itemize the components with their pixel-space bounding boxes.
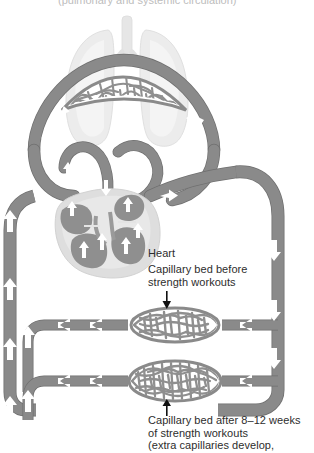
label-capillary-bed-before: Capillary bed before strength workouts <box>148 263 247 288</box>
label-capillary-bed-after: Capillary bed after 8–12 weeks of streng… <box>148 414 301 452</box>
circulatory-system-figure <box>0 0 314 453</box>
capillary-bed-after <box>129 361 221 401</box>
label-pointer-before <box>163 291 172 309</box>
great-vessel-loops <box>34 146 236 200</box>
label-heart: Heart <box>148 247 175 260</box>
heart-illustration <box>55 189 160 278</box>
capillary-bed-before <box>131 308 219 342</box>
